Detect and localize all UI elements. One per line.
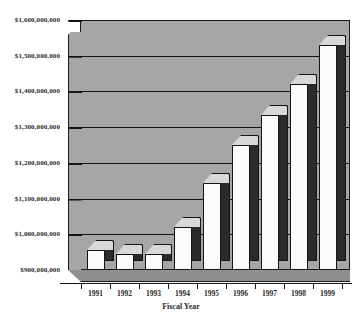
x-axis-label: 1991	[88, 289, 103, 298]
x-axis-label: 1996	[233, 289, 248, 298]
bar-side-face	[308, 75, 317, 261]
y-axis-label: $1,200,000,000	[15, 159, 60, 167]
plot-floor	[68, 270, 350, 282]
x-axis-label: 1998	[291, 289, 306, 298]
bar-1997	[261, 115, 279, 270]
x-axis-label: 1993	[146, 289, 161, 298]
bar-front-face	[290, 84, 308, 270]
y-axis-label: $1,500,000,000	[15, 52, 60, 60]
bars-layer	[68, 20, 350, 282]
bar-1995	[203, 183, 221, 271]
bar-side-face	[221, 174, 230, 262]
bar-1996	[232, 145, 250, 270]
bar-1993	[145, 254, 163, 270]
y-axis-label: $900,000,000	[20, 266, 60, 274]
bar-front-face	[232, 145, 250, 270]
bar-side-face	[337, 36, 346, 261]
x-axis-title: Fiscal Year	[0, 302, 362, 311]
bar-side-face	[250, 136, 259, 261]
plot-area	[68, 20, 350, 282]
bar-front-face	[145, 254, 163, 270]
bar-front-face	[261, 115, 279, 270]
bar-1998	[290, 84, 308, 270]
x-axis-label: 1992	[117, 289, 132, 298]
bar-side-face	[279, 106, 288, 261]
bar-front-face	[116, 254, 134, 270]
y-axis-label: $1,000,000,000	[15, 230, 60, 238]
y-axis-labels: $900,000,000 $1,000,000,000 $1,100,000,0…	[0, 20, 60, 282]
bar-front-face	[87, 250, 105, 270]
bar-1991	[87, 250, 105, 270]
y-axis-label: $1,100,000,000	[15, 195, 60, 203]
bar-1992	[116, 254, 134, 270]
x-axis-label: 1999	[320, 289, 335, 298]
y-axis-label: $1,600,000,000	[15, 16, 60, 24]
bar-front-face	[174, 227, 192, 270]
x-axis-label: 1995	[204, 289, 219, 298]
x-axis-label: 1997	[262, 289, 277, 298]
bar-front-face	[319, 45, 337, 270]
bar-1994	[174, 227, 192, 270]
y-axis-label: $1,300,000,000	[15, 123, 60, 131]
x-axis-label: 1994	[175, 289, 190, 298]
bar-front-face	[203, 183, 221, 271]
bar-chart-figure: $900,000,000 $1,000,000,000 $1,100,000,0…	[0, 0, 362, 320]
bar-1999	[319, 45, 337, 270]
x-axis-labels: 1991 1992 1993 1994 1995 1996 1997 1998 …	[68, 289, 350, 303]
y-axis-label: $1,400,000,000	[15, 87, 60, 95]
